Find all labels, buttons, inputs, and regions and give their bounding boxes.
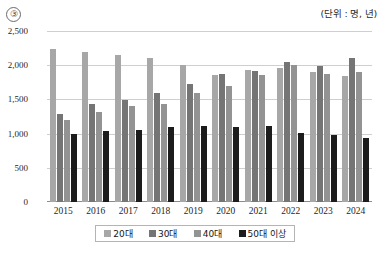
bar-group (81, 31, 111, 202)
bar-group (276, 31, 306, 202)
bar-2019-20대 (180, 65, 186, 202)
legend-item-50대 이상[interactable]: 50대 이상 (239, 227, 286, 240)
legend-item-20대[interactable]: 20대 (104, 227, 132, 240)
legend-label: 20대 (113, 227, 132, 240)
x-axis-tick-label: 2023 (308, 206, 338, 216)
legend-swatch-icon (104, 230, 111, 237)
chart-plot-wrapper: 05001,0001,5002,0002,500 201520162017201… (0, 22, 387, 256)
bar-2024-50대 이상 (363, 138, 369, 202)
x-axis-tick-label: 2019 (178, 206, 208, 216)
x-axis-labels: 2015201620172018201920202021202220232024 (47, 206, 372, 216)
x-axis-tick-label: 2021 (243, 206, 273, 216)
x-axis-tick-label: 2016 (81, 206, 111, 216)
item-number-badge: ③ (6, 7, 21, 22)
legend-swatch-icon (149, 230, 156, 237)
bar-2018-20대 (147, 58, 153, 202)
bar-group (341, 31, 371, 202)
bar-2020-30대 (219, 74, 225, 202)
bar-group (308, 31, 338, 202)
bar-2024-40대 (356, 72, 362, 202)
y-axis-tick-label: 2,500 (0, 27, 28, 36)
bar-2020-40대 (226, 86, 232, 202)
bar-2015-40대 (64, 120, 70, 202)
bar-2016-30대 (89, 104, 95, 202)
bar-groups (47, 31, 372, 202)
bar-2017-30대 (122, 100, 128, 202)
legend-label: 50대 이상 (248, 227, 286, 240)
chart-page: ③ (단위 : 명, 년) 05001,0001,5002,0002,500 2… (0, 0, 387, 256)
bar-2019-30대 (187, 84, 193, 202)
bar-2023-20대 (310, 72, 316, 202)
bar-2021-40대 (259, 75, 265, 202)
legend-item-30대[interactable]: 30대 (149, 227, 177, 240)
legend-swatch-icon (194, 230, 201, 237)
bar-group (113, 31, 143, 202)
x-axis-tick-label: 2020 (211, 206, 241, 216)
bar-2023-40대 (324, 74, 330, 202)
bar-group (211, 31, 241, 202)
legend-swatch-icon (239, 230, 246, 237)
bar-group (243, 31, 273, 202)
bar-2015-20대 (50, 49, 56, 202)
legend-label: 30대 (158, 227, 177, 240)
bar-2022-20대 (277, 68, 283, 202)
bar-2017-20대 (115, 55, 121, 202)
bar-2023-50대 이상 (331, 135, 337, 202)
bar-2022-50대 이상 (298, 133, 304, 202)
bar-group (48, 31, 78, 202)
bar-2016-40대 (96, 112, 102, 202)
bar-2023-30대 (317, 66, 323, 202)
bar-2021-30대 (252, 71, 258, 202)
bar-2016-20대 (82, 52, 88, 202)
bar-2020-50대 이상 (233, 127, 239, 202)
bar-2015-50대 이상 (71, 134, 77, 202)
chart-legend: 20대30대40대50대 이상 (95, 225, 295, 242)
bar-2015-30대 (57, 114, 63, 202)
bar-2021-20대 (245, 70, 251, 202)
bar-2021-50대 이상 (266, 126, 272, 202)
bar-2017-50대 이상 (136, 130, 142, 203)
y-axis-tick-label: 1,000 (0, 130, 28, 139)
bar-2018-40대 (161, 104, 167, 202)
x-axis-tick-label: 2018 (146, 206, 176, 216)
bar-2017-40대 (129, 106, 135, 202)
legend-item-40대[interactable]: 40대 (194, 227, 222, 240)
bar-2018-30대 (154, 93, 160, 202)
bar-2019-50대 이상 (201, 126, 207, 202)
legend-label: 40대 (203, 227, 222, 240)
x-axis-tick-label: 2015 (48, 206, 78, 216)
x-axis-tick-label: 2022 (276, 206, 306, 216)
bar-2019-40대 (194, 93, 200, 202)
bar-group (146, 31, 176, 202)
bar-2018-50대 이상 (168, 127, 174, 202)
y-axis-tick-label: 0 (0, 198, 28, 207)
bar-2016-50대 이상 (103, 131, 109, 202)
y-axis-tick-label: 2,000 (0, 61, 28, 70)
bar-2024-30대 (349, 58, 355, 202)
y-axis-tick-label: 1,500 (0, 95, 28, 104)
unit-note-label: (단위 : 명, 년) (321, 6, 378, 20)
y-axis-tick-label: 500 (0, 164, 28, 173)
bar-2022-40대 (291, 65, 297, 202)
bar-2024-20대 (342, 76, 348, 202)
bar-2020-20대 (212, 75, 218, 202)
x-axis-tick-label: 2017 (113, 206, 143, 216)
bar-group (178, 31, 208, 202)
bar-2022-30대 (284, 62, 290, 202)
x-axis-tick-label: 2024 (341, 206, 371, 216)
